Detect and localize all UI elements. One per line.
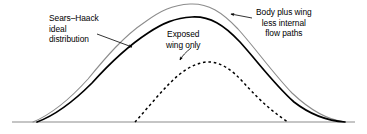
leader-line-body-plus-wing [231,14,252,18]
annotation-line: distribution [49,34,89,44]
annotation-line: less internal [262,18,306,28]
annotation-line: Sears–Haack [49,13,99,23]
annotation-body-plus-wing-less-internal-flow-paths: Body plus wingless internalflow paths [256,7,312,39]
annotation-line: flow paths [265,28,302,38]
annotation-line: ideal [49,24,66,34]
annotation-exposed-wing-only: Exposedwing only [166,29,200,50]
area-distribution-diagram: Sears–Haackidealdistribution Body plus w… [0,0,367,134]
annotation-line: Body plus wing [256,7,312,17]
annotation-sears-haack-ideal-distribution: Sears–Haackidealdistribution [49,13,99,45]
annotation-line: wing only [166,40,200,50]
annotation-line: Exposed [167,29,199,39]
